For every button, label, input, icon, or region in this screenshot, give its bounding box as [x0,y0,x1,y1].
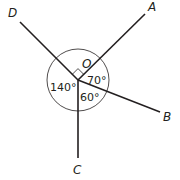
angle-label-boc: 60° [80,91,100,104]
label-d: D [8,6,17,20]
ray-od [20,22,78,80]
label-a: A [147,0,156,14]
label-b: B [163,110,171,124]
label-c: C [73,163,82,177]
angle-diagram: D A B C O 70° 60° 140° [0,0,180,180]
angle-label-cod: 140° [50,81,77,94]
label-o: O [82,57,91,71]
angle-label-aob: 70° [87,74,107,87]
